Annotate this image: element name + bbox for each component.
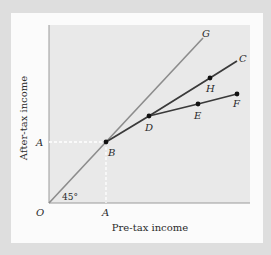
label-C: C: [239, 53, 247, 64]
point-B: [104, 140, 109, 145]
y-axis-title: After-tax income: [18, 76, 29, 161]
angle-label: 45°: [62, 192, 78, 202]
label-H: H: [205, 83, 215, 94]
point-D: [147, 114, 152, 119]
label-D: D: [144, 122, 153, 133]
tax-schedule-diagram: G C H F E D B A A O 45° Pre-tax income A…: [0, 0, 271, 255]
figure-frame: G C H F E D B A A O 45° Pre-tax income A…: [0, 0, 271, 255]
y-tick-A: A: [35, 137, 43, 148]
label-E: E: [193, 110, 202, 121]
label-F: F: [232, 98, 241, 109]
point-H: [208, 76, 213, 81]
label-G: G: [202, 28, 210, 39]
label-B: B: [107, 147, 115, 158]
x-axis-title: Pre-tax income: [112, 222, 188, 233]
point-E: [196, 102, 201, 107]
x-tick-A: A: [101, 207, 109, 218]
origin-label: O: [36, 207, 44, 218]
point-F: [235, 92, 240, 97]
